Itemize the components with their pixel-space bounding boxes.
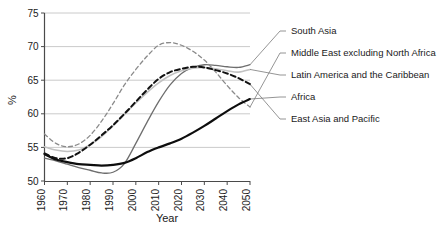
y-tick-label: 75: [27, 8, 39, 19]
y-axis-title: %: [6, 95, 18, 105]
y-tick-label: 60: [27, 108, 39, 119]
x-tick-label: 2020: [173, 189, 184, 212]
series-label: South Asia: [291, 25, 337, 36]
series-label: East Asia and Pacific: [291, 113, 380, 124]
x-tick-label: 1980: [81, 189, 92, 212]
y-tick-label: 55: [27, 142, 39, 153]
x-tick-label: 2050: [241, 189, 252, 212]
chart-page: 505560657075 196019701980199020002010202…: [0, 0, 437, 233]
y-tick-label: 70: [27, 41, 39, 52]
x-tick-label: 2030: [195, 189, 206, 212]
series-label: Middle East excluding North Africa: [291, 47, 436, 58]
population-dependency-line-chart: 505560657075 196019701980199020002010202…: [0, 0, 437, 233]
x-tick-label: 2040: [218, 189, 229, 212]
series-label: Latin America and the Caribbean: [291, 69, 429, 80]
x-tick-label: 1960: [36, 189, 47, 212]
y-tick-label: 50: [27, 176, 39, 187]
y-tick-label: 65: [27, 75, 39, 86]
x-axis-title: Year: [156, 212, 179, 224]
x-tick-label: 2010: [150, 189, 161, 212]
x-tick-label: 1990: [104, 189, 115, 212]
x-tick-label: 1970: [58, 189, 69, 212]
x-tick-label: 2000: [127, 189, 138, 212]
series-label: Africa: [291, 91, 316, 102]
